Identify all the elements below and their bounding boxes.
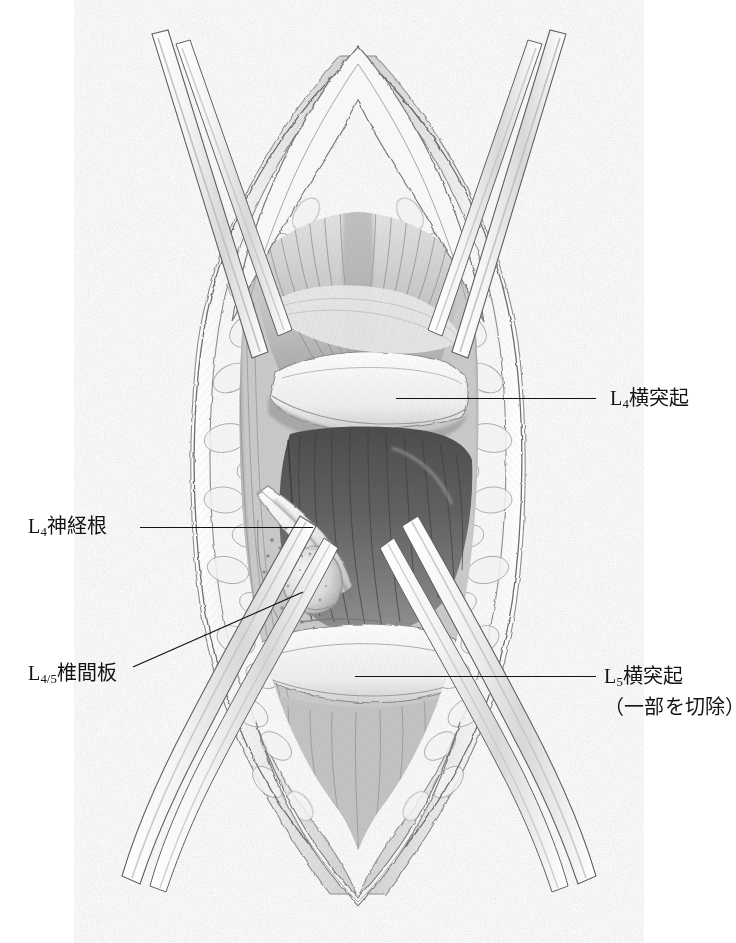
label-l4-transverse-process: L4横突起 bbox=[610, 386, 689, 417]
leader-line-l4-transverse-process bbox=[396, 398, 596, 399]
label-l4-5-disc: L4/5椎間板 bbox=[28, 661, 117, 692]
leader-line-l5-transverse-process bbox=[355, 676, 596, 677]
label-nerve-text: 神経根 bbox=[47, 515, 108, 537]
leader-line-l4-nerve-root bbox=[140, 527, 313, 528]
label-l4-nerve-root: L4神経根 bbox=[28, 514, 107, 545]
label-l4tp-text: 横突起 bbox=[629, 387, 690, 409]
label-disc-prefix: L bbox=[28, 662, 40, 684]
label-l5tp-line2: （一部を切除） bbox=[604, 695, 736, 720]
label-disc-text: 椎間板 bbox=[57, 662, 118, 684]
label-nerve-prefix: L bbox=[28, 515, 40, 537]
label-l4tp-prefix: L bbox=[610, 387, 622, 409]
label-disc-subscript: 4/5 bbox=[40, 672, 56, 686]
label-l5tp-text: 横突起 bbox=[623, 665, 684, 687]
label-l5-transverse-process: L5横突起（一部を切除） bbox=[604, 664, 736, 720]
label-l5tp-prefix: L bbox=[604, 665, 616, 687]
